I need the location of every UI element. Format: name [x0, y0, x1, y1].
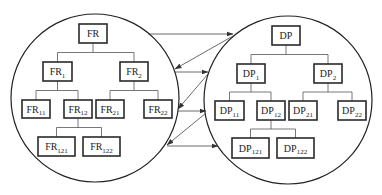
node-label-base: FR [148, 104, 161, 115]
node-label-base: DP [342, 105, 355, 116]
node-label-base: FR [90, 141, 103, 152]
node-dp2: DP2 [314, 64, 342, 83]
node-label-base: FR [87, 28, 100, 39]
node-fr2: FR2 [120, 62, 148, 81]
node-label-subscript: 22 [161, 109, 169, 117]
fr-dp-mapping-diagram: FRFR1FR2FR11FR12FR21FR22FR121FR122DPDP1D… [0, 0, 382, 195]
node-label-base: DP [243, 68, 256, 79]
node-dp121: DP121 [232, 138, 269, 158]
node-fr11: FR11 [22, 100, 50, 118]
mapping-arrow-physical-to-functional [175, 36, 233, 69]
node-label-subscript: 121 [252, 148, 263, 156]
node-label-base: DP [293, 105, 306, 116]
node-label-subscript: 21 [306, 111, 314, 119]
node-dp12: DP12 [257, 101, 285, 120]
node-label-base: DP [280, 30, 293, 41]
node-label-subscript: 11 [39, 109, 46, 117]
node-label-subscript: 1 [62, 72, 66, 80]
node-label-subscript: 1 [256, 74, 260, 82]
node-dp: DP [272, 26, 300, 45]
node-label-base: DP [261, 105, 274, 116]
node-label-base: FR [68, 104, 81, 115]
node-label-subscript: 2 [138, 72, 142, 80]
node-fr21: FR21 [96, 100, 124, 118]
node-label-base: FR [45, 141, 58, 152]
node-label-subscript: 122 [102, 147, 113, 155]
node-label-subscript: 22 [355, 111, 363, 119]
node-label-base: DP [320, 68, 333, 79]
node-label: DP [280, 30, 293, 41]
node-dp11: DP11 [215, 101, 244, 120]
node-label-base: DP [239, 143, 252, 154]
node-label-base: DP [220, 105, 233, 116]
node-label-subscript: 12 [274, 111, 282, 119]
node-label-subscript: 122 [297, 148, 308, 156]
node-label-subscript: 12 [81, 109, 89, 117]
node-fr12: FR12 [64, 100, 92, 118]
node-label-base: FR [126, 66, 139, 77]
node-label: FR [87, 28, 100, 39]
node-dp22: DP22 [338, 101, 366, 120]
node-label-subscript: 21 [113, 109, 121, 117]
node-fr22: FR22 [144, 100, 172, 118]
node-label-subscript: 11 [233, 111, 240, 119]
node-label-base: FR [100, 104, 113, 115]
node-dp21: DP21 [289, 101, 317, 120]
node-fr121: FR121 [38, 137, 75, 156]
node-label-subscript: 2 [333, 74, 337, 82]
node-label-base: FR [50, 66, 63, 77]
node-fr1: FR1 [43, 62, 72, 81]
domain-circles [11, 14, 372, 184]
node-dp122: DP122 [277, 138, 314, 158]
node-label-base: DP [284, 143, 297, 154]
node-fr122: FR122 [83, 137, 120, 156]
tree-nodes: FRFR1FR2FR11FR12FR21FR22FR121FR122DPDP1D… [22, 24, 366, 158]
node-label-base: FR [27, 104, 40, 115]
node-label-subscript: 121 [57, 147, 68, 155]
node-dp1: DP1 [237, 64, 265, 83]
node-fr: FR [79, 24, 107, 43]
